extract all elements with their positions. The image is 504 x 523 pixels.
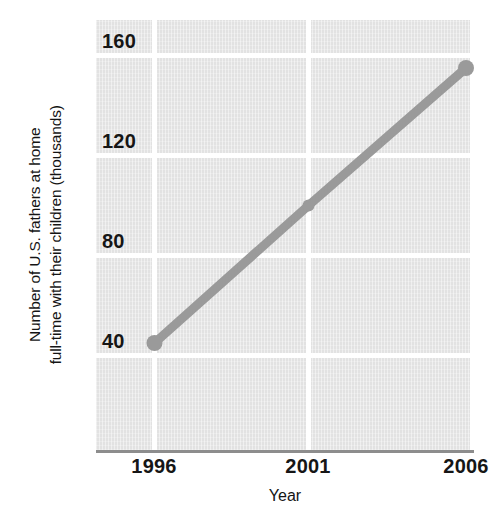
- data-point-2001: [303, 200, 315, 212]
- x-tick-label-2001: 2001: [285, 455, 330, 478]
- x-tick-label-2006: 2006: [443, 455, 488, 478]
- x-axis-line: [96, 450, 474, 453]
- x-axis-title: Year: [96, 487, 474, 505]
- plot-area: 160 120 80 40: [96, 20, 470, 450]
- line-chart-figure: Number of U.S. fathers at home full-time…: [0, 0, 504, 523]
- y-axis-title-text: Number of U.S. fathers at home full-time…: [25, 105, 67, 364]
- x-tick-label-1996: 1996: [131, 455, 176, 478]
- data-series-layer: [96, 20, 470, 450]
- data-point-1996: [147, 335, 163, 351]
- data-point-2006: [458, 60, 474, 76]
- y-axis-title-line-2: full-time with their children (thousands…: [46, 105, 67, 364]
- y-axis-title: Number of U.S. fathers at home full-time…: [0, 0, 92, 470]
- y-axis-title-line-1: Number of U.S. fathers at home: [25, 105, 46, 364]
